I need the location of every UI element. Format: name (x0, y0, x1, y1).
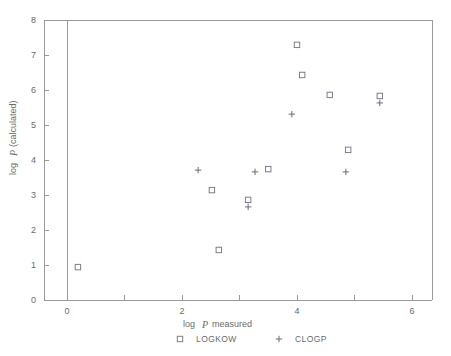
x-tick-label: 2 (179, 306, 184, 316)
x-tick-label: 6 (409, 306, 414, 316)
y-axis-title-pre: log (8, 163, 18, 175)
data-point-plus (195, 167, 201, 173)
y-tick-label: 6 (31, 85, 36, 95)
data-point-plus (245, 204, 251, 210)
y-tick-label: 5 (31, 120, 36, 130)
x-tick-label: 0 (64, 306, 69, 316)
y-tick-label: 2 (31, 225, 36, 235)
y-tick-label: 4 (31, 155, 36, 165)
data-point-plus (252, 169, 258, 175)
axes-frame (44, 20, 432, 300)
y-axis-title-post: (calculated) (8, 100, 18, 147)
y-tick-label: 7 (31, 50, 36, 60)
data-point-square (266, 166, 271, 171)
data-point-square (294, 42, 299, 47)
data-point-plus (343, 169, 349, 175)
x-axis-title: log P measured (183, 319, 252, 330)
data-point-square (75, 264, 80, 269)
x-axis-title-pre: log (183, 319, 195, 329)
data-markers-layer (75, 42, 383, 270)
x-tick-label: 4 (294, 306, 299, 316)
data-point-square (299, 72, 304, 77)
legend-label-logkow: LOGKOW (196, 334, 237, 344)
series-logkow (75, 42, 382, 270)
y-axis-title: log P (calculated) (8, 100, 19, 175)
data-point-square (245, 197, 250, 202)
data-point-plus (289, 111, 295, 117)
y-axis-title-italic: P (8, 150, 19, 157)
y-tick-label: 1 (31, 260, 36, 270)
data-point-square (209, 187, 214, 192)
x-axis-ticks: 0246 (64, 295, 414, 316)
data-point-square (345, 147, 350, 152)
plot-svg: 0246 012345678 log P measured log P (cal… (0, 0, 451, 356)
data-point-square (377, 93, 382, 98)
y-axis-ticks: 012345678 (31, 15, 49, 305)
legend-label-clogp: CLOGP (295, 334, 327, 344)
x-axis-title-italic: P (201, 319, 208, 330)
y-tick-label: 3 (31, 190, 36, 200)
y-tick-label: 0 (31, 295, 36, 305)
legend: LOGKOWCLOGP (177, 334, 326, 344)
legend-marker-logkow (177, 336, 182, 341)
data-point-square (327, 92, 332, 97)
data-point-plus (377, 100, 383, 106)
series-clogp (195, 100, 383, 210)
x-axis-title-post: measured (212, 319, 252, 329)
data-point-square (216, 247, 221, 252)
scatter-plot-figure: 0246 012345678 log P measured log P (cal… (0, 0, 451, 356)
y-tick-label: 8 (31, 15, 36, 25)
legend-marker-clogp (276, 336, 282, 342)
